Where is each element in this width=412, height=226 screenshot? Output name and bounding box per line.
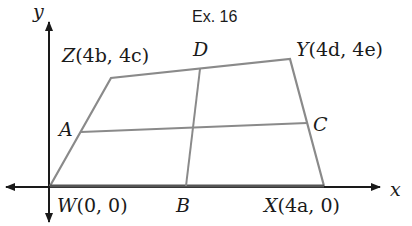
coordinate-figure: y x Ex. 16 Z(4b, 4c) Y(4d, 4e) W(0, 0) X… (0, 0, 412, 226)
quadrilateral-diagram: y x Ex. 16 Z(4b, 4c) Y(4d, 4e) W(0, 0) X… (0, 0, 412, 226)
vertex-W-label: W(0, 0) (57, 194, 128, 216)
midpoint-B-label: B (175, 194, 190, 216)
vertex-Y-label: Y(4d, 4e) (296, 38, 383, 60)
figure-title: Ex. 16 (192, 8, 237, 25)
midpoint-A-label: A (57, 118, 73, 140)
y-axis-label: y (32, 0, 44, 22)
vertex-X-label: X(4a, 0) (262, 194, 340, 216)
vertex-Z-label: Z(4b, 4c) (61, 44, 149, 66)
x-axis-label: x (390, 178, 401, 200)
midpoint-D-label: D (192, 38, 208, 60)
midpoint-C-label: C (313, 113, 328, 135)
quadrilateral-WZYX (50, 59, 324, 186)
